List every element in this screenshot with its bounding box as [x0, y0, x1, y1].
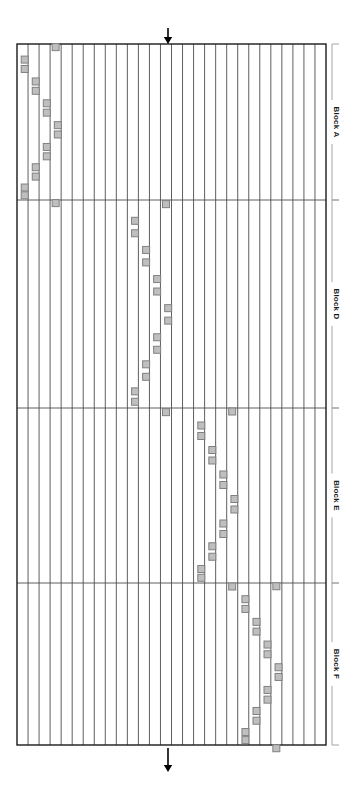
- diagram-canvas: Block ABlock DBlock EBlock F: [0, 0, 360, 810]
- plot-marker: [143, 361, 150, 368]
- plot-marker: [264, 696, 271, 703]
- plot-marker: [143, 259, 150, 266]
- plot-marker: [154, 288, 161, 295]
- plot-marker: [253, 707, 260, 714]
- plot-marker: [154, 276, 161, 283]
- plot-marker: [154, 334, 161, 341]
- plot-marker: [229, 583, 236, 590]
- block-label: Block F: [332, 649, 341, 679]
- block-label: Block D: [332, 288, 341, 319]
- plot-marker: [143, 373, 150, 380]
- plot-marker: [165, 305, 172, 312]
- plot-marker: [143, 246, 150, 253]
- plot-marker: [264, 641, 271, 648]
- plot-marker: [21, 56, 28, 63]
- plot-marker: [220, 471, 227, 478]
- plot-marker: [52, 200, 59, 207]
- block-layout-figure: Block ABlock DBlock EBlock F: [0, 0, 360, 810]
- plot-marker: [229, 408, 236, 415]
- plot-marker: [21, 184, 28, 191]
- plot-marker: [21, 65, 28, 72]
- block-label: Block E: [332, 480, 341, 511]
- plot-marker: [264, 651, 271, 658]
- plot-marker: [242, 596, 249, 603]
- plot-marker: [132, 217, 139, 224]
- plot-marker: [132, 388, 139, 395]
- plot-marker: [198, 433, 205, 440]
- plot-marker: [32, 78, 39, 85]
- plot-marker: [198, 566, 205, 573]
- plot-marker: [43, 109, 50, 116]
- plot-marker: [43, 143, 50, 150]
- plot-marker: [32, 173, 39, 180]
- plot-marker: [209, 457, 216, 464]
- plot-marker: [52, 44, 59, 51]
- plot-marker: [220, 520, 227, 527]
- plot-marker: [198, 422, 205, 429]
- plot-marker: [242, 729, 249, 736]
- plot-marker: [253, 628, 260, 635]
- plot-marker: [273, 583, 280, 590]
- block-label: Block A: [332, 107, 341, 138]
- plot-marker: [209, 553, 216, 560]
- plot-marker: [43, 153, 50, 160]
- plot-marker: [220, 531, 227, 538]
- plot-marker: [264, 686, 271, 693]
- plot-marker: [242, 737, 249, 744]
- plot-marker: [209, 447, 216, 454]
- plot-marker: [154, 346, 161, 353]
- plot-marker: [43, 100, 50, 107]
- plot-marker: [273, 745, 280, 752]
- plot-marker: [220, 482, 227, 489]
- plot-marker: [32, 164, 39, 171]
- plot-marker: [198, 574, 205, 581]
- plot-marker: [275, 664, 282, 671]
- plot-marker: [32, 87, 39, 94]
- plot-marker: [231, 496, 238, 503]
- plot-marker: [275, 673, 282, 680]
- plot-marker: [132, 398, 139, 405]
- plot-marker: [162, 201, 169, 208]
- plot-marker: [209, 543, 216, 550]
- plot-marker: [253, 618, 260, 625]
- plot-marker: [242, 605, 249, 612]
- plot-marker: [165, 317, 172, 324]
- plot-marker: [231, 506, 238, 513]
- plot-marker: [54, 122, 61, 129]
- plot-marker: [253, 717, 260, 724]
- plot-marker: [132, 230, 139, 237]
- plot-marker: [162, 409, 169, 416]
- plot-marker: [54, 131, 61, 138]
- plot-marker: [21, 192, 28, 199]
